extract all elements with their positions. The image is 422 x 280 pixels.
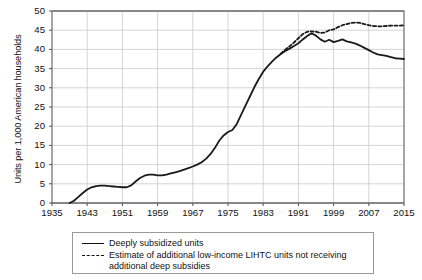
legend-label-lihtc-estimate: Estimate of additional low-income LIHTC … [105,250,373,272]
series-line-dashed [281,23,404,54]
legend-label-deeply-subsidized: Deeply subsidized units [105,238,204,249]
chart-legend: Deeply subsidized units Estimate of addi… [72,232,374,274]
legend-line-solid-icon [81,238,105,249]
legend-item-lihtc-estimate: Estimate of additional low-income LIHTC … [81,250,373,272]
legend-line-dashed-icon [81,250,105,261]
series-line-solid [70,33,404,203]
chart-figure: Units per 1,000 American households 0510… [0,0,422,280]
legend-item-deeply-subsidized: Deeply subsidized units [81,238,204,249]
